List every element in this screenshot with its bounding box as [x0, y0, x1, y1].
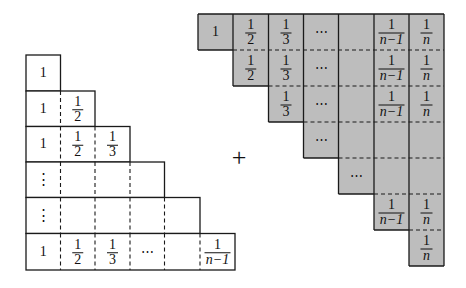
cell-value: ⋮	[36, 207, 51, 223]
fraction-denominator: 2	[247, 32, 254, 47]
fraction-denominator: n	[423, 212, 430, 227]
fraction-denominator: n	[423, 68, 430, 83]
cell-value: 1	[212, 24, 219, 39]
fraction-denominator: 3	[283, 68, 290, 83]
shaded-row	[269, 86, 445, 122]
fraction-denominator: 2	[74, 144, 81, 159]
fraction-denominator: 3	[283, 32, 290, 47]
fraction-denominator: 3	[109, 252, 116, 267]
fraction-numerator: 1	[388, 53, 395, 68]
fraction-denominator: n	[423, 104, 430, 119]
fraction-numerator: 1	[247, 17, 254, 32]
fraction-numerator: 1	[247, 53, 254, 68]
cell-value: ⋯	[141, 244, 154, 259]
cell-value: 1	[40, 244, 47, 259]
fraction-numerator: 1	[214, 237, 221, 252]
fraction-numerator: 1	[74, 129, 81, 144]
fraction-numerator: 1	[388, 17, 395, 32]
fraction-numerator: 1	[283, 17, 290, 32]
fraction-denominator: 3	[283, 104, 290, 119]
fraction-denominator: n−1	[206, 252, 229, 267]
cell-value: ⋮	[36, 171, 51, 187]
fraction-denominator: 2	[74, 252, 81, 267]
fraction-numerator: 1	[109, 237, 116, 252]
fraction-numerator: 1	[283, 89, 290, 104]
fraction-numerator: 1	[423, 197, 430, 212]
fraction-denominator: n−1	[380, 104, 403, 119]
fraction-numerator: 1	[283, 53, 290, 68]
cell-value: ⋯	[315, 24, 328, 39]
fraction-denominator: n	[423, 32, 430, 47]
fraction-numerator: 1	[109, 129, 116, 144]
fraction-denominator: n−1	[380, 68, 403, 83]
cell-value: ⋯	[350, 168, 363, 183]
fraction-numerator: 1	[74, 94, 81, 109]
fraction-denominator: n	[423, 248, 430, 263]
fraction-numerator: 1	[388, 89, 395, 104]
cell-value: 1	[40, 65, 47, 80]
cell-value: ⋯	[315, 132, 328, 147]
fraction-numerator: 1	[74, 237, 81, 252]
fraction-numerator: 1	[423, 89, 430, 104]
fraction-numerator: 1	[423, 233, 430, 248]
cell-value: 1	[40, 101, 47, 116]
harmonic-sum-diagram: 111211213⋮⋮11213⋯1n−1 + 11213⋯1n−11n1213…	[0, 0, 466, 288]
cell-value: ⋯	[315, 96, 328, 111]
cell-value: 1	[40, 136, 47, 151]
cell-value: ⋯	[315, 60, 328, 75]
fraction-denominator: n−1	[380, 32, 403, 47]
left-staircase: 111211213⋮⋮11213⋯1n−1	[26, 55, 235, 270]
staircase-row	[26, 198, 200, 234]
fraction-denominator: 2	[247, 68, 254, 83]
fraction-denominator: 3	[109, 144, 116, 159]
right-staircase: 11213⋯1n−11n1213⋯1n−11n13⋯1n−11n⋯⋯1n−11n…	[198, 14, 444, 266]
fraction-denominator: 2	[74, 109, 81, 124]
plus-operator: +	[232, 143, 247, 172]
fraction-denominator: n−1	[380, 212, 403, 227]
fraction-numerator: 1	[423, 53, 430, 68]
fraction-numerator: 1	[423, 17, 430, 32]
fraction-numerator: 1	[388, 197, 395, 212]
